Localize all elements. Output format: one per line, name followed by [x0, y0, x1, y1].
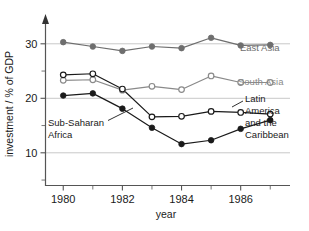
- data-point-east-asia: [208, 35, 214, 41]
- data-point-south-asia: [179, 87, 185, 93]
- data-point-sub-saharan-africa: [149, 125, 155, 131]
- chart-container: 102030 1980198219841986 year investment …: [0, 0, 309, 231]
- data-point-latin-america-and-the-caribbean: [208, 109, 214, 115]
- data-point-sub-saharan-africa: [60, 93, 66, 99]
- data-point-south-asia: [90, 77, 96, 83]
- series-label-sub-saharan: Sub-Saharan: [48, 117, 104, 128]
- data-point-latin-america-and-the-caribbean: [179, 113, 185, 119]
- series-label-latin-america-line2: America: [245, 105, 281, 116]
- data-point-east-asia: [60, 39, 66, 45]
- series-label-south-asia: South Asia: [238, 76, 284, 87]
- data-point-south-asia: [149, 84, 155, 90]
- x-tick-label: 1980: [51, 193, 75, 205]
- data-point-latin-america-and-the-caribbean: [120, 86, 126, 92]
- series-label-latin-america: Latin: [245, 93, 266, 104]
- data-point-east-asia: [149, 44, 155, 50]
- x-tick-label: 1986: [228, 193, 252, 205]
- data-point-south-asia: [208, 73, 214, 79]
- y-tick-label: 30: [25, 38, 37, 50]
- data-point-sub-saharan-africa: [208, 137, 214, 143]
- data-point-sub-saharan-africa: [90, 91, 96, 97]
- data-point-sub-saharan-africa: [238, 126, 244, 132]
- x-tick-label: 1982: [110, 193, 134, 205]
- data-point-latin-america-and-the-caribbean: [90, 71, 96, 77]
- data-point-sub-saharan-africa: [179, 141, 185, 147]
- x-axis-title: year: [156, 208, 177, 220]
- data-point-east-asia: [179, 45, 185, 51]
- y-axis-title: investment / % of GDP: [3, 51, 15, 157]
- data-point-south-asia: [60, 78, 66, 84]
- series-label-latin-america-line3: and the: [245, 117, 277, 128]
- data-point-sub-saharan-africa: [120, 106, 126, 112]
- series-label-latin-america-line4: Caribbean: [245, 129, 289, 140]
- data-point-latin-america-and-the-caribbean: [238, 110, 244, 116]
- series-label-sub-saharan-line2: Africa: [48, 129, 73, 140]
- data-point-latin-america-and-the-caribbean: [60, 72, 66, 78]
- series-label-east-asia: East Asia: [240, 42, 280, 53]
- data-point-east-asia: [120, 48, 126, 54]
- investment-line-chart: 102030 1980198219841986 year investment …: [0, 0, 309, 231]
- x-tick-label: 1984: [169, 193, 193, 205]
- data-point-east-asia: [90, 44, 96, 50]
- y-tick-label: 20: [25, 92, 37, 104]
- data-point-latin-america-and-the-caribbean: [149, 114, 155, 120]
- y-tick-label: 10: [25, 147, 37, 159]
